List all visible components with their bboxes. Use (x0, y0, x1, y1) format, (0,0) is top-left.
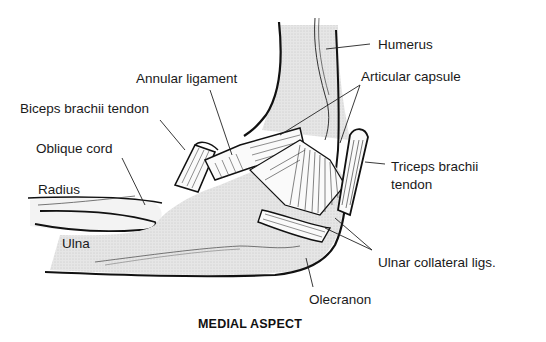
label-oblique-cord: Oblique cord (36, 142, 113, 156)
radius-bone (28, 196, 162, 231)
label-humerus: Humerus (378, 38, 433, 52)
label-triceps-brachii: Triceps brachii (391, 160, 478, 174)
label-articular-capsule: Articular capsule (361, 70, 461, 84)
label-ulnar-collateral-ligs: Ulnar collateral ligs. (378, 256, 496, 270)
label-olecranon: Olecranon (309, 293, 371, 307)
label-ulna: Ulna (62, 237, 90, 251)
triceps-tendon-shape (338, 129, 368, 215)
elbow-anatomy-diagram: Humerus Articular capsule Annular ligame… (0, 0, 546, 342)
label-annular-ligament: Annular ligament (136, 72, 237, 86)
label-biceps-brachii-tendon: Biceps brachii tendon (20, 102, 149, 116)
label-triceps-tendon: tendon (391, 178, 432, 192)
label-radius: Radius (38, 183, 80, 197)
diagram-caption: MEDIAL ASPECT (198, 318, 302, 331)
